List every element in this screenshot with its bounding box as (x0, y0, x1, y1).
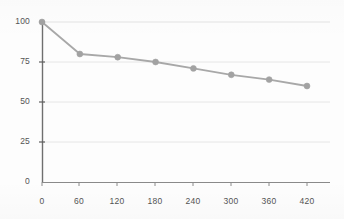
data-point (266, 77, 272, 83)
x-tick-label-180: 180 (140, 196, 170, 206)
x-tick-label-420: 420 (292, 196, 322, 206)
y-tick-label-100: 100 (6, 16, 30, 26)
y-tick-label-75: 75 (6, 56, 30, 66)
y-tick-label-25: 25 (6, 136, 30, 146)
x-tick-label-360: 360 (254, 196, 284, 206)
data-point (153, 59, 159, 65)
data-point (228, 72, 234, 78)
y-tick-label-50: 50 (6, 96, 30, 106)
data-point (115, 54, 121, 60)
line-chart: 100 75 50 25 0 0 60 120 180 240 300 360 … (0, 0, 344, 219)
x-tick-label-240: 240 (178, 196, 208, 206)
x-tick-label-300: 300 (216, 196, 246, 206)
plot-area (0, 0, 344, 219)
x-tick-label-120: 120 (102, 196, 132, 206)
y-tick-label-0: 0 (6, 176, 30, 186)
axes (42, 20, 330, 183)
data-point (304, 83, 310, 89)
x-tick-label-60: 60 (64, 196, 94, 206)
series-markers (39, 19, 310, 89)
data-point (190, 65, 196, 71)
x-tick-label-0: 0 (27, 196, 57, 206)
data-series-1 (39, 19, 310, 89)
data-point (77, 51, 83, 57)
data-point (39, 19, 45, 25)
